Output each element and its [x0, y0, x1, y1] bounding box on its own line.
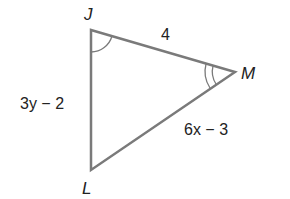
side-label-jl: 3y − 2 [20, 95, 64, 112]
vertex-label-m: M [241, 64, 256, 83]
triangle-jml [91, 30, 235, 170]
triangle-diagram: J M L 4 3y − 2 6x − 3 [0, 0, 290, 199]
angle-mark-m-inner [212, 66, 216, 84]
angle-mark-m-outer [205, 64, 210, 88]
vertex-label-j: J [83, 5, 93, 24]
vertex-label-l: L [82, 179, 91, 198]
side-label-jm: 4 [161, 26, 170, 43]
side-label-lm: 6x − 3 [184, 121, 228, 138]
angle-mark-j [91, 36, 112, 52]
